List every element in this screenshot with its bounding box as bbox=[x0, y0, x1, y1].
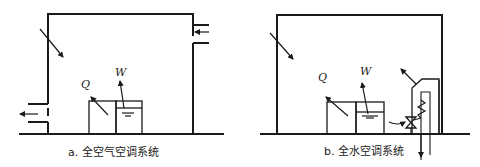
heat-source-box bbox=[327, 102, 356, 134]
heat-source-box bbox=[89, 101, 116, 134]
room-wall-left-top bbox=[48, 14, 193, 104]
water-supply-pipe bbox=[421, 92, 430, 160]
fan-coil-housing bbox=[412, 79, 439, 134]
diagram-canvas: Q W Q W bbox=[0, 0, 480, 167]
moisture-arrow bbox=[362, 83, 368, 114]
solar-heat-gain-arrow bbox=[270, 33, 293, 59]
control-signal-arrow bbox=[389, 122, 405, 124]
label-w-a: W bbox=[115, 66, 128, 79]
label-q-a: Q bbox=[81, 78, 90, 91]
label-q-b: Q bbox=[318, 71, 327, 84]
caption-b: b. 全水空调系统 bbox=[324, 142, 404, 158]
moisture-source-box bbox=[116, 101, 142, 134]
solar-heat-gain-arrow bbox=[40, 29, 63, 57]
control-valve-icon bbox=[406, 117, 416, 128]
diagram-b-all-water-system bbox=[260, 15, 470, 160]
fan-coil-discharge-arrow bbox=[401, 69, 416, 84]
label-w-b: W bbox=[360, 65, 373, 78]
heat-arrow bbox=[326, 97, 348, 116]
heat-arrow bbox=[91, 97, 108, 115]
moisture-arrow bbox=[120, 81, 124, 108]
caption-a: a. 全空气空调系统 bbox=[68, 143, 159, 159]
